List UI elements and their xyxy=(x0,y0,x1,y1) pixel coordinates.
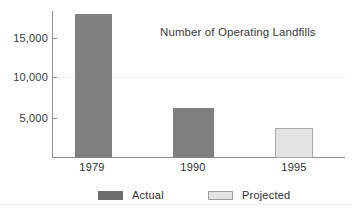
legend-label-projected: Projected xyxy=(242,189,290,201)
legend-swatch-actual-icon xyxy=(98,191,123,200)
legend-item-actual[interactable]: Actual xyxy=(98,186,164,204)
legend-label-actual: Actual xyxy=(132,189,164,201)
y-axis-label-15000: 15,000 xyxy=(13,33,48,44)
y-axis-label-5000: 5,000 xyxy=(19,113,48,124)
bars-layer xyxy=(52,11,345,158)
scan-artifact-line xyxy=(0,204,352,205)
x-axis-label-1979: 1979 xyxy=(62,161,122,173)
x-axis-label-1995: 1995 xyxy=(264,161,324,173)
legend-swatch-projected-icon xyxy=(208,191,233,200)
y-axis-label-10000: 10,000 xyxy=(13,72,48,83)
bar-1979[interactable] xyxy=(75,14,112,158)
x-axis-label-1990: 1990 xyxy=(163,161,223,173)
chart-legend: Actual Projected xyxy=(0,186,352,204)
legend-item-projected[interactable]: Projected xyxy=(208,186,290,204)
chart-container: Number of Operating Landfills 15,000 10,… xyxy=(0,0,352,209)
bar-1990[interactable] xyxy=(173,108,214,158)
bar-1995[interactable] xyxy=(275,128,313,158)
